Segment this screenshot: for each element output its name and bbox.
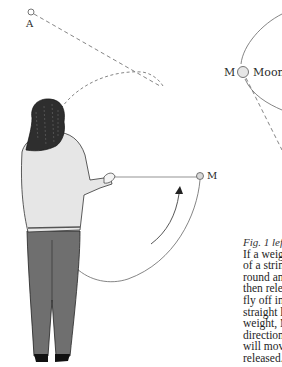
dashed-orbit-arc: [58, 72, 163, 113]
hair: [26, 99, 65, 151]
caption-title: Fig. 1 left: [243, 237, 282, 249]
moon-marker: [238, 67, 249, 78]
diagram-canvas: [0, 0, 282, 367]
point-a-marker: [28, 9, 34, 15]
dashed-trajectory-line: [34, 14, 160, 86]
caption-line: fly off int: [243, 295, 282, 307]
caption-line: weight, M: [243, 318, 282, 330]
weight-marker: [197, 173, 204, 180]
moon-label: Moon: [253, 67, 282, 78]
point-a-label: A: [26, 19, 33, 29]
moon-point-label: M: [224, 67, 235, 78]
weight-label: M: [207, 171, 217, 181]
weight-circular-path: [76, 180, 200, 282]
illustration: A M Moon M Fig. 1 left If a weigh of a s…: [0, 0, 282, 367]
jeans: [27, 231, 80, 356]
figure-caption: Fig. 1 left If a weigh of a string round…: [243, 237, 282, 365]
hand: [104, 173, 115, 183]
motion-arrow-arc: [151, 194, 179, 244]
shoes: [34, 354, 70, 362]
caption-line: released.: [243, 353, 282, 365]
arrowhead-icon: [175, 186, 183, 194]
moon-orbit-arc: [241, 14, 282, 110]
woman-figure: [21, 99, 115, 362]
